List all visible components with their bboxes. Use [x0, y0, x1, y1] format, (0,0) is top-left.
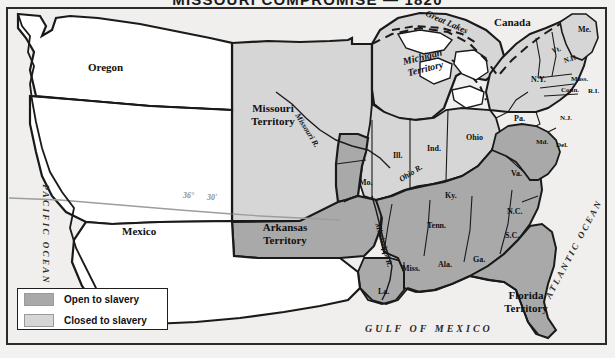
maine-label: Me.: [578, 26, 591, 34]
virginia-label: Va.: [511, 170, 522, 178]
maryland-label: Md.: [536, 139, 548, 146]
new-jersey-label: N.J.: [560, 115, 572, 122]
missouri-compromise-map: MISSOURI COMPROMISE — 1820: [0, 0, 615, 358]
gulf-of-mexico-label: GULF OF MEXICO: [365, 324, 493, 334]
map-legend: Open to slavery Closed to slavery: [17, 288, 168, 330]
mississippi-label: Miss.: [402, 265, 420, 273]
tennessee-label: Tenn.: [427, 222, 446, 230]
legend-label-closed: Closed to slavery: [64, 315, 147, 326]
kentucky-label: Ky.: [445, 192, 457, 200]
ohio-label: Ohio: [466, 134, 483, 142]
legend-swatch-open: [24, 293, 54, 306]
florida-territory-line2: Territory: [485, 303, 567, 314]
louisiana-label: La.: [378, 288, 389, 296]
massachusetts-label: Mass.: [571, 76, 588, 83]
missouri-state-label: Mo.: [359, 179, 373, 187]
indiana-label: Ind.: [427, 145, 441, 153]
legend-row-open: Open to slavery: [18, 289, 167, 310]
legend-row-closed: Closed to slavery: [18, 310, 167, 331]
canada-label: Canada: [494, 17, 531, 28]
pacific-ocean-text: PACIFIC OCEAN: [41, 184, 51, 284]
florida-territory-line1: Florida: [485, 290, 567, 301]
pacific-ocean-label: PACIFIC OCEAN: [41, 180, 50, 290]
delaware-label: Del.: [556, 142, 568, 149]
connecticut-label: Conn.: [561, 87, 579, 94]
georgia-label: Ga.: [473, 256, 485, 264]
missouri-territory-line1: Missouri: [228, 103, 318, 114]
arkansas-territory-label: Arkansas Territory: [237, 222, 333, 246]
gulf-of-mexico-text: GULF OF MEXICO: [365, 323, 493, 334]
arkansas-territory-line2: Territory: [237, 235, 333, 246]
mexico-label: Mexico: [122, 226, 156, 237]
arkansas-territory-line1: Arkansas: [237, 222, 333, 233]
pennsylvania-label: Pa.: [514, 115, 525, 123]
new-york-label: N.Y.: [531, 76, 546, 84]
illinois-label: Ill.: [393, 152, 403, 160]
north-carolina-label: N.C.: [507, 208, 523, 216]
south-carolina-label: S.C.: [505, 232, 519, 240]
region-mexico-north: [30, 96, 232, 224]
legend-swatch-closed: [24, 314, 54, 327]
oregon-label: Oregon: [88, 62, 123, 73]
latitude-36-label: 36°: [183, 192, 194, 200]
legend-label-open: Open to slavery: [64, 294, 139, 305]
rhode-island-label: R.I.: [588, 88, 599, 95]
florida-territory-label: Florida Territory: [485, 290, 567, 314]
latitude-30-label: 30': [207, 194, 217, 202]
alabama-label: Ala.: [438, 261, 452, 269]
